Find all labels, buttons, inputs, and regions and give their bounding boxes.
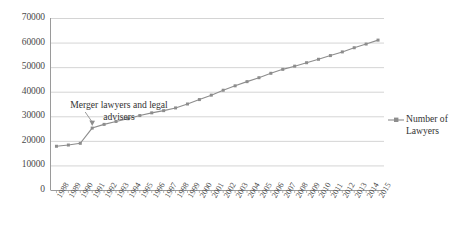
y-axis-tick-label: 10000 [0,159,45,169]
data-point-marker [210,94,213,97]
data-point-marker [67,144,70,147]
chart-legend: Number of Lawyers [388,113,462,136]
data-point-marker [234,84,237,87]
data-point-marker [365,43,368,46]
y-axis-tick-label: 0 [0,184,45,194]
legend-label: Number of Lawyers [406,113,462,136]
legend-marker-icon [388,116,404,124]
legend-label-line-2: Lawyers [406,125,462,137]
data-point-marker [79,142,82,145]
data-point-marker [55,145,58,148]
y-axis-tick-label: 30000 [0,110,45,120]
data-point-marker [91,127,94,130]
data-point-marker [341,50,344,53]
data-point-marker [103,123,106,126]
annotation-line-1: Merger lawyers and legal [56,99,182,111]
data-point-marker [198,98,201,101]
y-axis-tick-label: 40000 [0,86,45,96]
data-point-marker [281,68,284,71]
line-chart: 010000200003000040000500006000070000 198… [0,0,465,242]
data-point-marker [257,76,260,79]
data-point-marker [269,72,272,75]
y-axis-tick-label: 60000 [0,37,45,47]
data-point-marker [305,61,308,64]
y-axis-tick-label: 50000 [0,61,45,71]
chart-annotation: Merger lawyers and legal advisers [56,99,182,122]
annotation-line-2: advisers [56,111,182,123]
data-point-marker [246,80,249,83]
data-point-marker [222,89,225,92]
data-point-marker [293,65,296,68]
data-point-marker [329,54,332,57]
y-axis-tick-label: 70000 [0,12,45,22]
y-axis-tick-label: 20000 [0,135,45,145]
data-point-marker [186,103,189,106]
data-point-marker [317,58,320,61]
data-point-marker [353,46,356,49]
legend-label-line-1: Number of [406,113,462,125]
data-point-marker [377,39,380,42]
